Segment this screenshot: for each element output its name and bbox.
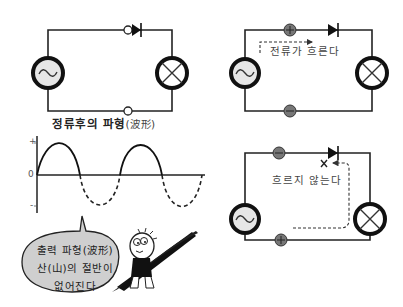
left-circuit [33,23,187,115]
no-flow-label: 흐르지 않는다 [272,172,342,187]
giant-diode-icon [117,232,196,291]
cartoon-character [112,228,198,292]
circuit-wire [245,153,370,240]
waveform-title-hanja: (波形) [126,118,156,130]
axis-label-minus: - [30,200,33,210]
diode-icon [328,23,338,37]
circuit-wire [48,30,172,111]
bubble-line-1: 출력 파형(波形) [30,242,120,257]
waveform-title-text: 정류후의 파형 [52,117,126,131]
character-head [130,233,154,259]
current-flows-label: 전류가 흐른다 [270,43,340,58]
blocked-x-icon [321,160,327,167]
diode-icon [132,23,141,37]
rectified-half-wave-2 [120,145,162,175]
rectified-half-wave-1 [37,143,80,175]
bubble-line-3: 없어진다 [30,278,120,293]
character-body [131,258,152,277]
reverse-circuit [231,146,385,246]
terminal-bottom-icon [124,107,132,115]
diode-icon [328,146,338,160]
axis-label-zero: 0 [28,169,34,179]
axis-label-plus: + [29,136,37,146]
waveform-chart [34,136,205,213]
terminal-top-icon [124,26,132,34]
blocked-half-wave-2 [162,175,202,207]
forward-circuit [231,23,387,117]
waveform-title: 정류후의 파형(波形) [52,115,156,131]
bubble-line-2: 산(山)의 절반이 [30,260,120,275]
blocked-half-wave-1 [80,175,120,205]
